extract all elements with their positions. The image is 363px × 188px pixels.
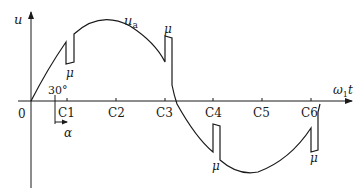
notch-label-2: μ bbox=[164, 22, 172, 36]
alpha-label: α bbox=[64, 126, 72, 140]
tick-label-c2: C2 bbox=[108, 106, 125, 120]
tick-label-c5: C5 bbox=[253, 106, 270, 120]
tick-label-c4: C4 bbox=[205, 106, 222, 120]
tick-label-c3: C3 bbox=[156, 106, 173, 120]
notch-label-4: μ bbox=[310, 151, 318, 165]
tick-label-c1: C1 bbox=[58, 106, 75, 120]
origin-label: 0 bbox=[18, 107, 26, 121]
waveform-curve bbox=[31, 20, 320, 173]
tick-labels: C1 C2 C3 C4 C5 C6 bbox=[58, 106, 318, 120]
angle-label: 30° bbox=[48, 84, 68, 97]
notch-labels: μ μ μ μ bbox=[66, 22, 318, 173]
notch-label-3: μ bbox=[212, 159, 220, 173]
waveform-diagram: u 0 ua 30° α ω1t C1 C2 C3 C4 C5 C6 μ μ μ… bbox=[0, 0, 363, 188]
curve-label: ua bbox=[124, 13, 138, 30]
x-axis-label: ω1t bbox=[333, 83, 353, 99]
y-axis-label: u bbox=[14, 12, 22, 27]
tick-label-c6: C6 bbox=[301, 106, 318, 120]
notch-label-1: μ bbox=[66, 66, 74, 80]
